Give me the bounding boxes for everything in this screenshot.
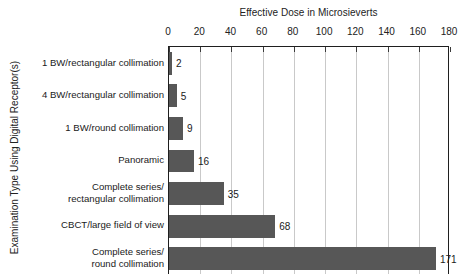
bar[interactable]	[169, 182, 224, 205]
bar[interactable]	[169, 84, 177, 107]
x-axis-title: Effective Dose in Microsieverts	[168, 7, 449, 18]
bar-value-label: 9	[183, 123, 193, 134]
x-axis-tick-labels: 020406080100120140160180	[0, 26, 461, 40]
bar-row: 5	[169, 84, 448, 107]
x-tick-label: 80	[287, 26, 298, 37]
bar-value-label: 2	[172, 58, 182, 69]
category-label: 4 BW/rectangular collimation	[18, 89, 164, 101]
bar-value-label: 5	[177, 90, 187, 101]
bar-value-label: 171	[436, 253, 457, 264]
bar-value-label: 16	[194, 155, 209, 166]
x-tick-label: 180	[441, 26, 458, 37]
category-label: Complete series/ round collimation	[18, 246, 164, 269]
x-tick-label: 40	[225, 26, 236, 37]
category-label: 1 BW/round collimation	[18, 122, 164, 134]
bar-row: 9	[169, 117, 448, 140]
category-label: CBCT/large field of view	[18, 219, 164, 231]
x-tick-label: 120	[347, 26, 364, 37]
bar[interactable]	[169, 247, 436, 270]
bar-row: 68	[169, 215, 448, 238]
category-label: Complete series/ rectangular collimation	[18, 181, 164, 204]
category-label: Panoramic	[18, 154, 164, 166]
x-tick-mark	[450, 47, 451, 52]
bar[interactable]	[169, 150, 194, 173]
x-tick-label: 60	[256, 26, 267, 37]
bar-row: 35	[169, 182, 448, 205]
bar-row: 171	[169, 247, 448, 270]
bar-row: 16	[169, 150, 448, 173]
x-tick-label: 20	[194, 26, 205, 37]
bar-value-label: 68	[275, 221, 290, 232]
x-tick-label: 140	[378, 26, 395, 37]
category-label: 1 BW/rectangular collimation	[18, 57, 164, 69]
plot-area: 259163568171	[168, 46, 449, 274]
x-tick-label: 160	[409, 26, 426, 37]
x-tick-label: 0	[165, 26, 171, 37]
bar[interactable]	[169, 215, 275, 238]
x-tick-label: 100	[316, 26, 333, 37]
category-labels: 1 BW/rectangular collimation4 BW/rectang…	[18, 46, 166, 274]
bar-row: 2	[169, 52, 448, 75]
bar-chart: Effective Dose in Microsieverts 02040608…	[0, 0, 461, 274]
bar-value-label: 35	[224, 188, 239, 199]
bar[interactable]	[169, 117, 183, 140]
